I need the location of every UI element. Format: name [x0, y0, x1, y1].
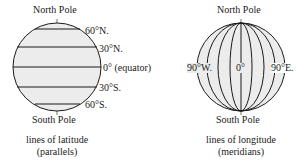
longitude-caption-line2: (meridians): [186, 146, 296, 158]
lat-equator-label: 0° (equator): [103, 63, 151, 73]
south-pole-label-left: South Pole: [32, 115, 76, 125]
lat-60s-label: 60°S.: [85, 100, 107, 110]
lat-60n-label: 60°N.: [85, 26, 109, 36]
latitude-caption: lines of latitude (parallels): [7, 134, 107, 158]
north-pole-label-right: North Pole: [217, 5, 261, 15]
south-pole-label-right: South Pole: [216, 115, 260, 125]
lon-0-label: 0°: [236, 63, 245, 73]
longitude-caption: lines of longitude (meridians): [186, 134, 296, 158]
latitude-caption-line1: lines of latitude: [7, 134, 107, 146]
lon-90w-label: 90°W.: [187, 63, 212, 73]
north-pole-label-left: North Pole: [33, 5, 77, 15]
longitude-caption-line1: lines of longitude: [186, 134, 296, 146]
lat-30n-label: 30°N.: [99, 44, 123, 54]
lat-30s-label: 30°S.: [99, 83, 121, 93]
latitude-caption-line2: (parallels): [7, 146, 107, 158]
lon-90e-label: 90°E.: [271, 63, 294, 73]
